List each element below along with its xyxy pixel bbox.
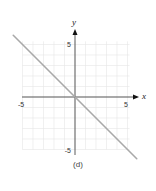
x-tick-label-5: 5	[124, 101, 128, 108]
x-tick-label-neg5: -5	[18, 101, 24, 108]
y-tick-label-neg5: -5	[65, 147, 71, 154]
x-axis-label: x	[141, 91, 146, 101]
y-tick-label-5: 5	[67, 41, 71, 48]
axes	[22, 29, 139, 155]
tick-labels: y x -5 5 5 -5	[18, 17, 146, 154]
grid-lines	[23, 41, 130, 149]
x-axis-arrow-icon	[133, 95, 139, 100]
y-axis-arrow-icon	[73, 29, 78, 35]
figure-caption: (d)	[0, 160, 156, 169]
y-axis-label: y	[71, 17, 76, 27]
